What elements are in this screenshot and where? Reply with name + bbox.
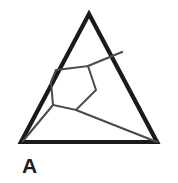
figure-label: A bbox=[22, 155, 38, 176]
figure-container: A bbox=[0, 0, 178, 183]
